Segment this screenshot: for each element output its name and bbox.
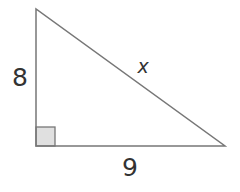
right-triangle-diagram: 8 9 x <box>0 0 240 192</box>
right-angle-marker <box>36 127 55 146</box>
triangle <box>36 9 225 146</box>
horizontal-leg-label: 9 <box>122 153 138 182</box>
vertical-leg-label: 8 <box>12 63 28 92</box>
hypotenuse-label: x <box>136 55 149 77</box>
